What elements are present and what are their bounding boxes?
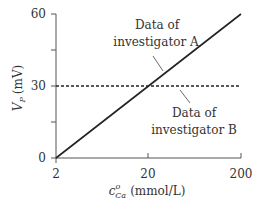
- annotation-b-line2: investigator B: [151, 123, 237, 137]
- annotation-b-line1: Data of: [172, 106, 218, 120]
- annotation-b-leader: [180, 90, 190, 103]
- x-axis-label-sup: o: [115, 182, 120, 191]
- y-axis-label-sub: P: [18, 97, 27, 104]
- annotation-a-line2: investigator A: [113, 35, 199, 49]
- y-axis-label-unit: (mV): [11, 65, 25, 94]
- x-axis-label-sub: Ca: [115, 191, 126, 200]
- annotation-a-leader: [153, 56, 163, 71]
- y-axis-label: VP(mV): [11, 65, 27, 111]
- x-tick-label-2: 2: [52, 167, 60, 181]
- x-axis-label-unit: (mmol/L): [130, 184, 185, 198]
- annotation-a-line1: Data of: [135, 18, 181, 32]
- x-axis-label: coCa(mmol/L): [109, 182, 186, 200]
- chart: 60 30 0 2 20 200 Data of investigator A …: [0, 0, 263, 213]
- y-tick-label-30: 30: [31, 79, 46, 93]
- x-tick-label-20: 20: [140, 167, 155, 181]
- y-tick-label-0: 0: [38, 151, 46, 165]
- x-tick-label-200: 200: [230, 167, 253, 181]
- y-tick-label-60: 60: [31, 7, 46, 21]
